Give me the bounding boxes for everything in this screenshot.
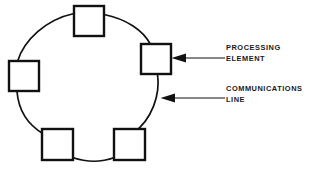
ring-arc-right-to-bottomright (134, 74, 159, 133)
annotation-arrow-processing-element (172, 54, 226, 63)
processing-element-bottom-right[interactable] (114, 129, 145, 160)
processing-element-right[interactable] (141, 44, 171, 74)
processing-element-left[interactable] (9, 61, 39, 91)
processing-element-top[interactable] (74, 6, 104, 36)
arrow-head-processing-element (172, 54, 187, 63)
annotation-label-communications-line-line2: LINE (226, 94, 303, 105)
annotation-label-communications-line: COMMUNICATIONS LINE (226, 83, 303, 105)
arrow-head-communications-line (161, 94, 176, 103)
ring-arc-bottomleft-to-bottomright (73, 158, 115, 162)
ring-arc-top-to-right (104, 15, 151, 45)
annotation-label-processing-element-line1: PROCESSING (226, 42, 281, 53)
annotation-arrow-communications-line (161, 94, 226, 103)
annotation-label-processing-element-line2: ELEMENT (226, 53, 281, 64)
processing-element-nodes (9, 6, 171, 160)
ring-arc-left-to-bottomleft (17, 92, 44, 135)
annotation-label-communications-line-line1: COMMUNICATIONS (226, 83, 303, 94)
annotation-label-processing-element: PROCESSING ELEMENT (226, 42, 281, 64)
processing-element-bottom-left[interactable] (42, 129, 73, 160)
diagram-canvas: PROCESSING ELEMENT COMMUNICATIONS LINE (0, 0, 324, 170)
ring-arc-left-to-top (18, 14, 75, 62)
